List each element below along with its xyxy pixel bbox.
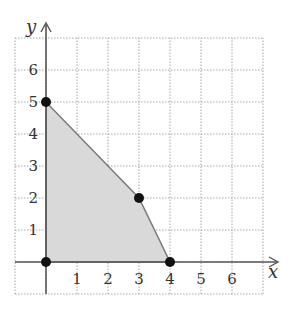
vertex-point: [41, 97, 51, 107]
x-axis-label: x: [268, 261, 278, 282]
x-tick-label: 5: [196, 270, 206, 288]
x-tick-label: 6: [227, 270, 237, 288]
y-tick-label: 4: [28, 125, 38, 143]
y-tick-label: 6: [28, 61, 38, 79]
vertex-point: [41, 257, 51, 267]
x-tick-label: 4: [165, 270, 175, 288]
x-tick-label: 3: [134, 270, 144, 288]
y-tick-label: 1: [28, 221, 38, 239]
vertex-point: [165, 257, 175, 267]
y-tick-label: 3: [28, 157, 38, 175]
y-axis-label: y: [25, 16, 37, 37]
y-tick-label: 5: [28, 93, 38, 111]
coordinate-plane: 123456123456 x y: [0, 0, 294, 313]
x-tick-label: 1: [72, 270, 82, 288]
y-tick-label: 2: [28, 189, 38, 207]
vertex-point: [134, 193, 144, 203]
x-tick-label: 2: [103, 270, 113, 288]
